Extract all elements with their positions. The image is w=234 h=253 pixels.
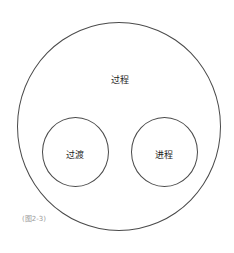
- outer-circle-label: 过程: [111, 75, 129, 85]
- venn-diagram: 过程 过渡 进程 (图2-3): [0, 0, 234, 253]
- inner-circle-right-label: 进程: [155, 150, 173, 160]
- outer-circle-process: [17, 22, 221, 231]
- inner-circle-left-label: 过渡: [66, 150, 84, 160]
- figure-caption: (图2-3): [22, 215, 46, 224]
